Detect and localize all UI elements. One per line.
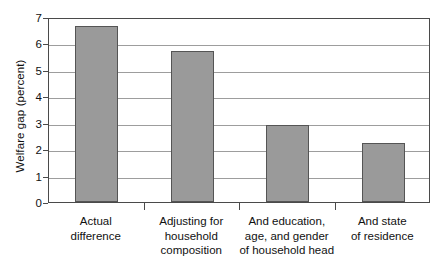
bar — [362, 143, 405, 202]
bar-chart: Welfare gap (percent) 01234567 Actual di… — [0, 0, 445, 268]
y-axis-tick-label: 2 — [16, 145, 42, 155]
y-axis-tick-label: 7 — [16, 13, 42, 23]
plot-area — [48, 18, 430, 203]
y-axis-tick-mark — [43, 203, 48, 204]
y-axis-tick-label: 3 — [16, 119, 42, 129]
bar — [266, 125, 309, 202]
y-axis-tick-label: 1 — [16, 172, 42, 182]
y-axis-tick-label: 0 — [16, 198, 42, 208]
x-axis-tick-mark — [144, 203, 145, 210]
y-axis-title: Welfare gap (percent) — [14, 21, 26, 211]
x-axis-tick-mark — [239, 203, 240, 210]
x-axis-tick-mark — [335, 203, 336, 210]
y-axis-tick-label: 6 — [16, 39, 42, 49]
bar — [75, 26, 118, 202]
bar — [171, 51, 214, 202]
y-axis-tick-label: 5 — [16, 66, 42, 76]
x-axis-category-label: And state of residence — [327, 214, 439, 243]
y-axis-tick-label: 4 — [16, 92, 42, 102]
